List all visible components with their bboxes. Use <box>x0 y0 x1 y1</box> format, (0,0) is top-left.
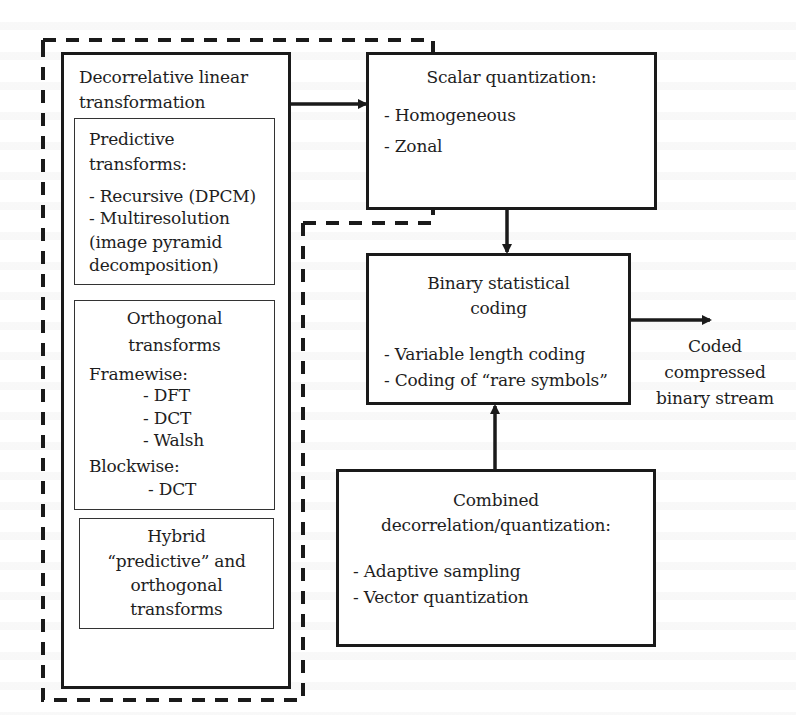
framewise-item-dft: - DFT <box>143 384 190 406</box>
hybrid-line-3: orthogonal <box>79 574 274 596</box>
binary-coding-title-line-2: coding <box>366 297 631 319</box>
predictive-item-recursive: - Recursive (DPCM) <box>89 185 256 207</box>
predictive-item-decomposition: decomposition) <box>89 254 218 276</box>
hybrid-line-4: transforms <box>79 598 274 620</box>
framewise-item-walsh: - Walsh <box>143 429 204 451</box>
combined-item-vector-quantization: - Vector quantization <box>353 586 529 608</box>
scalar-quantization-title: Scalar quantization: <box>366 66 657 88</box>
blockwise-item-dct: - DCT <box>148 478 196 500</box>
combined-title-line-2: decorrelation/quantization: <box>336 514 656 536</box>
combined-title-line-1: Combined <box>336 489 656 511</box>
orthogonal-title-line-1: Orthogonal <box>74 307 275 329</box>
transformation-title-line-1: Decorrelative linear <box>79 66 248 88</box>
binary-coding-item-vlc: - Variable length coding <box>384 343 585 365</box>
framewise-label: Framewise: <box>89 363 188 385</box>
hybrid-line-2: “predictive” and <box>79 550 274 572</box>
transformation-title-line-2: transformation <box>79 91 205 113</box>
predictive-title-line-1: Predictive <box>89 128 174 150</box>
combined-item-adaptive-sampling: - Adaptive sampling <box>353 560 520 582</box>
framewise-item-dct: - DCT <box>143 407 191 429</box>
predictive-item-pyramid: (image pyramid <box>89 231 222 253</box>
binary-coding-title-line-1: Binary statistical <box>366 272 631 294</box>
orthogonal-title-line-2: transforms <box>74 334 275 356</box>
predictive-title-line-2: transforms: <box>89 153 187 175</box>
blockwise-label: Blockwise: <box>89 455 180 477</box>
output-line-1: Coded <box>640 335 790 357</box>
hybrid-line-1: Hybrid <box>79 525 274 547</box>
binary-coding-item-rare: - Coding of “rare symbols” <box>384 369 608 391</box>
scalar-item-zonal: - Zonal <box>384 135 442 157</box>
predictive-item-multiresolution: - Multiresolution <box>89 207 230 229</box>
output-line-3: binary stream <box>640 387 790 409</box>
scalar-item-homogeneous: - Homogeneous <box>384 104 516 126</box>
output-line-2: compressed <box>640 361 790 383</box>
